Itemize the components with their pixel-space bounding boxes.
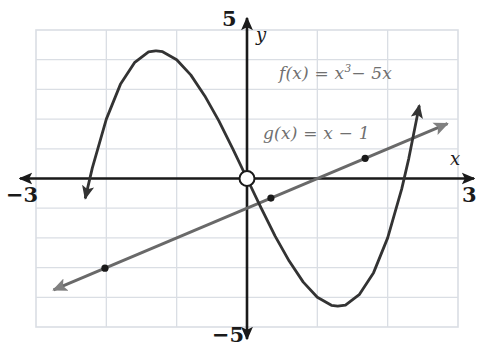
x-axis-max-tick-label: 3 xyxy=(462,182,477,207)
annotation-g-equation: g(x) = x − 1 xyxy=(263,123,370,143)
cartesian-plot xyxy=(0,0,487,352)
y-axis-max-tick-label: 5 xyxy=(222,6,237,31)
y-axis-label: y xyxy=(256,24,266,45)
intersection-left xyxy=(101,265,108,272)
intersection-right xyxy=(362,155,369,162)
x-axis-min-tick-label: −3 xyxy=(6,182,38,207)
origin-marker xyxy=(240,171,255,186)
intersection-middle xyxy=(267,195,274,202)
y-axis-min-tick-label: −5 xyxy=(212,322,244,347)
annotation-f-equation: f(x) = x3− 5x xyxy=(279,62,392,83)
x-axis-label: x xyxy=(450,148,460,169)
graph-figure: f(x) = x3− 5x g(x) = x − 1 −3 3 5 −5 x y xyxy=(0,0,487,352)
